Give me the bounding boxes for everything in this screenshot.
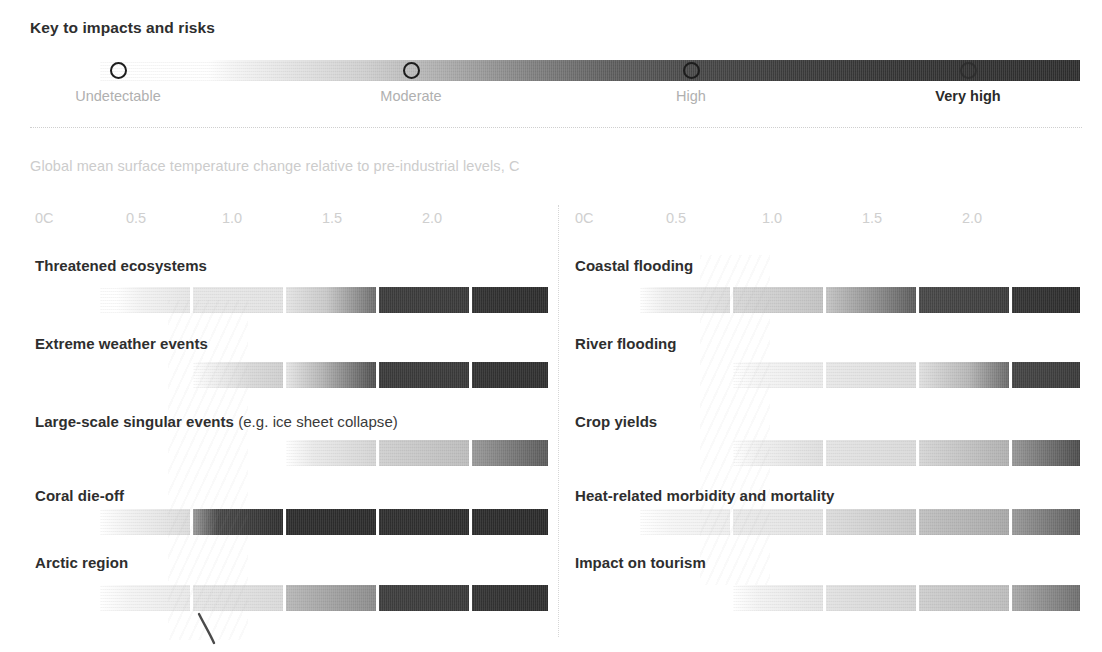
ember-segment-noise [1012, 585, 1080, 611]
pen-mark-artifact [196, 612, 218, 646]
impact-row-label: Threatened ecosystems [35, 257, 207, 274]
ember-segment [733, 509, 823, 535]
ember-segment-noise [733, 362, 823, 388]
ember-segment-noise [826, 287, 916, 313]
axis-tick-right-4: 2.0 [962, 210, 982, 226]
ember-bar [0, 585, 1102, 611]
impact-row-label: Arctic region [35, 554, 128, 571]
ember-segment-noise [733, 509, 823, 535]
ember-segment [826, 287, 916, 313]
axis-tick-right-1: 0.5 [666, 210, 686, 226]
ember-segment-noise [826, 509, 916, 535]
ember-segment-noise [919, 440, 1009, 466]
ember-segment [919, 585, 1009, 611]
axis-tick-left-1: 0.5 [126, 210, 146, 226]
ember-segment [1012, 440, 1080, 466]
impact-row-label: Impact on tourism [575, 554, 706, 571]
key-divider [30, 127, 1082, 128]
ember-bar [0, 362, 1102, 388]
impact-row-label: Extreme weather events [35, 335, 208, 352]
ember-segment-noise [1012, 287, 1080, 313]
ember-segment-noise [826, 440, 916, 466]
ember-segment [919, 509, 1009, 535]
ember-segment [733, 362, 823, 388]
key-marker-undetectable [110, 62, 127, 79]
key-label-undetectable: Undetectable [75, 88, 160, 104]
ember-segment [826, 509, 916, 535]
ember-segment-noise [1012, 362, 1080, 388]
ember-segment-noise [1012, 509, 1080, 535]
ember-segment [733, 440, 823, 466]
ember-segment-noise [919, 585, 1009, 611]
ember-segment [1012, 362, 1080, 388]
impact-row-label: Coastal flooding [575, 257, 693, 274]
axis-tick-left-0: 0C [35, 210, 54, 226]
impact-row-label: Crop yields [575, 413, 657, 430]
ember-bar [0, 440, 1102, 466]
axis-tick-left-2: 1.0 [222, 210, 242, 226]
burning-embers-figure: Key to impacts and risks Undetectable Mo… [0, 0, 1102, 652]
ember-segment-noise [919, 362, 1009, 388]
ember-segment [733, 585, 823, 611]
ember-segment [826, 362, 916, 388]
ember-segment-noise [640, 509, 730, 535]
axis-tick-right-3: 1.5 [862, 210, 882, 226]
ember-segment-noise [1012, 440, 1080, 466]
ember-segment-noise [733, 585, 823, 611]
ember-segment [826, 440, 916, 466]
key-label-high: High [676, 88, 706, 104]
axis-tick-right-2: 1.0 [762, 210, 782, 226]
ember-segment-noise [733, 287, 823, 313]
ember-bar [0, 509, 1102, 535]
ember-segment [1012, 509, 1080, 535]
ember-segment-noise [733, 440, 823, 466]
ember-segment [733, 287, 823, 313]
ember-segment-noise [919, 509, 1009, 535]
impact-row-label: Heat-related morbidity and mortality [575, 487, 834, 504]
ember-segment [640, 287, 730, 313]
key-label-moderate: Moderate [380, 88, 441, 104]
ember-segment [1012, 287, 1080, 313]
axis-caption: Global mean surface temperature change r… [30, 158, 519, 174]
ember-segment [1012, 585, 1080, 611]
impact-row-label: Large-scale singular events (e.g. ice sh… [35, 413, 398, 430]
key-marker-moderate [403, 62, 420, 79]
axis-tick-left-3: 1.5 [322, 210, 342, 226]
ember-segment [640, 509, 730, 535]
ember-bar [0, 287, 1102, 313]
ember-segment [826, 585, 916, 611]
axis-tick-right-0: 0C [575, 210, 594, 226]
key-title: Key to impacts and risks [30, 19, 215, 37]
axis-tick-left-4: 2.0 [422, 210, 442, 226]
ember-segment-noise [826, 585, 916, 611]
column-divider [558, 205, 559, 637]
key-label-very-high: Very high [935, 88, 1000, 104]
key-marker-very-high [960, 62, 977, 79]
ember-segment-noise [919, 287, 1009, 313]
ember-segment-noise [640, 287, 730, 313]
impact-row-label: Coral die-off [35, 487, 124, 504]
ember-segment [919, 287, 1009, 313]
key-gradient-bar [100, 60, 1080, 81]
ember-segment-noise [826, 362, 916, 388]
key-marker-high [683, 62, 700, 79]
ember-segment [919, 440, 1009, 466]
impact-row-label: River flooding [575, 335, 677, 352]
ember-segment [919, 362, 1009, 388]
